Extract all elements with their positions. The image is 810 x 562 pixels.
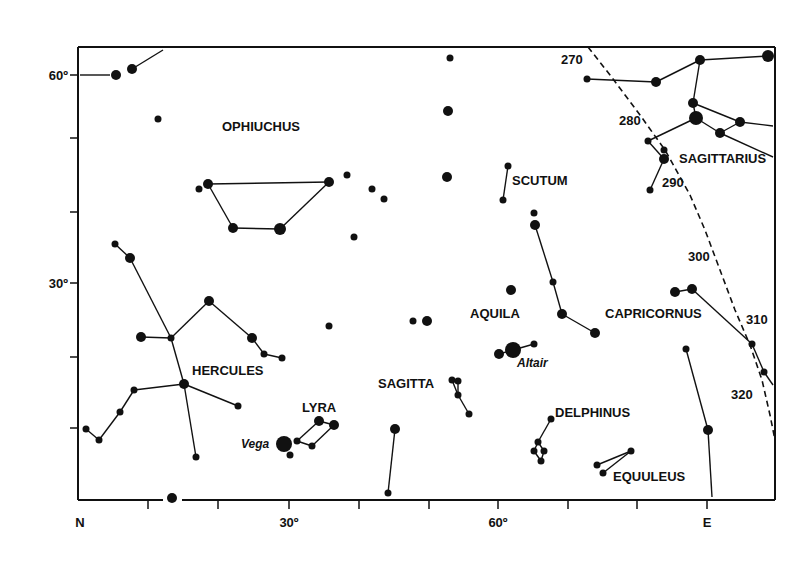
star-name-label: Altair <box>516 356 549 370</box>
star <box>715 128 725 138</box>
star <box>530 220 540 230</box>
star <box>117 409 124 416</box>
star <box>131 387 138 394</box>
star <box>167 493 177 503</box>
star <box>531 341 538 348</box>
star <box>703 425 713 435</box>
star-name-label: Vega <box>241 437 270 451</box>
x-axis-origin-label: N <box>75 515 84 530</box>
constellation-label: SAGITTA <box>378 376 435 391</box>
star <box>381 196 388 203</box>
star <box>535 439 542 446</box>
star <box>442 172 452 182</box>
star <box>385 490 392 497</box>
star <box>443 106 453 116</box>
star <box>538 458 545 465</box>
star <box>235 403 242 410</box>
star <box>324 177 334 187</box>
star <box>447 55 454 62</box>
star <box>390 424 400 434</box>
star <box>531 210 538 217</box>
star <box>590 328 600 338</box>
star <box>127 64 137 74</box>
star <box>111 70 121 80</box>
star <box>96 437 103 444</box>
star <box>541 448 548 455</box>
star <box>369 186 376 193</box>
star <box>651 77 661 87</box>
ecliptic-longitude-label: 270 <box>561 52 583 67</box>
star <box>136 332 146 342</box>
star <box>645 138 652 145</box>
star <box>422 316 432 326</box>
star-chart: 60º30º30º60ºEN 270280290300310320 OPHIUC… <box>0 0 810 562</box>
constellation-label: HERCULES <box>192 363 264 378</box>
star <box>695 55 705 65</box>
ecliptic-longitude-label: 320 <box>731 387 753 402</box>
star <box>688 98 698 108</box>
star <box>687 284 697 294</box>
x-tick-label: E <box>703 515 712 530</box>
star <box>506 285 516 295</box>
star <box>494 349 504 359</box>
star <box>600 470 607 477</box>
y-tick-label: 60º <box>49 68 68 83</box>
star <box>594 462 601 469</box>
star <box>314 416 324 426</box>
ecliptic-longitude-label: 300 <box>688 249 710 264</box>
star <box>112 241 119 248</box>
constellation-line <box>233 228 280 229</box>
star <box>455 392 462 399</box>
star <box>584 76 591 83</box>
star <box>670 287 680 297</box>
star <box>155 116 162 123</box>
star <box>659 154 669 164</box>
constellation-label: AQUILA <box>470 306 520 321</box>
star <box>204 296 214 306</box>
star <box>449 377 456 384</box>
star <box>647 187 654 194</box>
constellation-label: EQUULEUS <box>613 469 686 484</box>
star <box>735 117 745 127</box>
chart-background <box>0 0 810 562</box>
star <box>125 253 135 263</box>
star <box>531 448 538 455</box>
constellation-label: OPHIUCHUS <box>222 119 300 134</box>
constellation-label: SCUTUM <box>512 173 568 188</box>
star <box>466 411 473 418</box>
star <box>261 351 268 358</box>
ecliptic-longitude-label: 280 <box>619 113 641 128</box>
x-tick-label: 60º <box>488 515 507 530</box>
star <box>505 163 512 170</box>
star <box>309 443 316 450</box>
star <box>557 309 567 319</box>
constellation-label: DELPHINUS <box>555 405 630 420</box>
ecliptic-longitude-label: 290 <box>662 175 684 190</box>
constellation-label: SAGITTARIUS <box>679 151 766 166</box>
star <box>761 369 768 376</box>
star <box>344 172 351 179</box>
ecliptic-longitude-label: 310 <box>746 312 768 327</box>
star <box>196 186 203 193</box>
star <box>247 333 257 343</box>
constellation-label: LYRA <box>302 400 337 415</box>
star <box>548 416 555 423</box>
star <box>749 341 756 348</box>
star <box>628 448 635 455</box>
star <box>203 179 213 189</box>
star <box>455 378 462 385</box>
star <box>179 379 189 389</box>
star <box>294 438 301 445</box>
star <box>274 223 286 235</box>
star <box>329 420 339 430</box>
star <box>326 323 333 330</box>
star <box>351 234 358 241</box>
y-tick-label: 30º <box>49 276 68 291</box>
x-tick-label: 30º <box>279 515 298 530</box>
star <box>228 223 238 233</box>
star <box>762 50 774 62</box>
star <box>193 454 200 461</box>
star <box>689 111 703 125</box>
star <box>83 426 90 433</box>
star <box>550 279 557 286</box>
